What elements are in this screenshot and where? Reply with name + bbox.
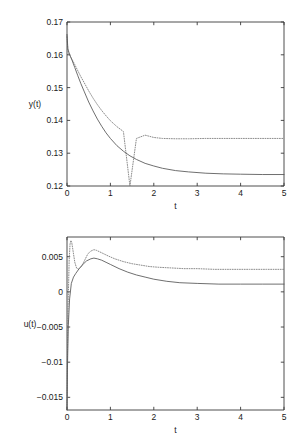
xtick-label: 5 xyxy=(282,412,287,422)
ytick-label: 0 xyxy=(58,287,63,297)
ytick-labels-ut: −0.015−0.01−0.00500.005 xyxy=(37,252,64,403)
yaxis-title-ut: u(t) xyxy=(24,319,37,329)
xtick-labels-yt: 012345 xyxy=(65,188,287,198)
xtick-label: 2 xyxy=(151,412,156,422)
axis-ticks-ut xyxy=(67,237,284,410)
axis-ticks-yt xyxy=(67,22,284,186)
xtick-label: 1 xyxy=(108,412,113,422)
xtick-label: 1 xyxy=(108,188,113,198)
xtick-label: 3 xyxy=(195,412,200,422)
xtick-label: 3 xyxy=(195,188,200,198)
xtick-label: 0 xyxy=(65,412,70,422)
ytick-label: 0.12 xyxy=(46,181,63,191)
xtick-label: 0 xyxy=(65,188,70,198)
xtick-label: 4 xyxy=(238,412,243,422)
plot-svg-yt: 012345 0.120.130.140.150.160.17 t y(t) xyxy=(0,0,299,223)
ytick-label: 0.005 xyxy=(42,252,64,262)
axis-frame-yt xyxy=(67,22,284,186)
ytick-label: −0.01 xyxy=(41,357,63,367)
plot-panel-ut: 012345 −0.015−0.01−0.00500.005 t u(t) xyxy=(0,223,299,447)
curve-ut-solid xyxy=(67,258,284,410)
ytick-label: 0.15 xyxy=(46,83,63,93)
curve-yt-dotted xyxy=(67,37,284,186)
xaxis-title-yt: t xyxy=(174,201,177,211)
xtick-labels-ut: 012345 xyxy=(65,412,287,422)
ytick-label: −0.015 xyxy=(37,392,64,402)
xtick-label: 2 xyxy=(151,188,156,198)
plot-panel-yt: 012345 0.120.130.140.150.160.17 t y(t) xyxy=(0,0,299,223)
xtick-label: 4 xyxy=(238,188,243,198)
ytick-label: 0.16 xyxy=(46,50,63,60)
plot-svg-ut: 012345 −0.015−0.01−0.00500.005 t u(t) xyxy=(0,223,299,447)
ytick-label: 0.14 xyxy=(46,115,63,125)
curve-ut-dotted xyxy=(67,241,284,410)
xaxis-title-ut: t xyxy=(174,425,177,435)
yaxis-title-yt: y(t) xyxy=(29,99,41,109)
ytick-label: 0.13 xyxy=(46,148,63,158)
ytick-label: −0.005 xyxy=(37,322,64,332)
curve-yt-solid xyxy=(67,34,284,174)
xtick-label: 5 xyxy=(282,188,287,198)
ytick-label: 0.17 xyxy=(46,17,63,27)
axis-frame-ut xyxy=(67,237,284,410)
ytick-labels-yt: 0.120.130.140.150.160.17 xyxy=(46,17,63,191)
figure-container: 012345 0.120.130.140.150.160.17 t y(t) 0… xyxy=(0,0,299,447)
